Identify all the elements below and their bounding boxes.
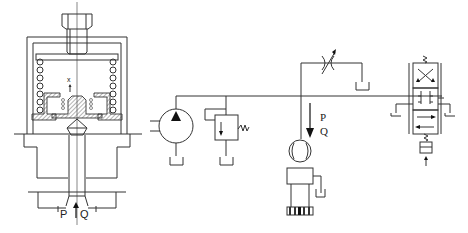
label-p-right: P xyxy=(320,111,326,123)
diagram-canvas: x xyxy=(0,0,468,233)
tank-pump xyxy=(170,157,183,165)
directional-valve xyxy=(391,56,455,166)
label-q-left: Q xyxy=(80,208,89,220)
hydraulic-schematic: P Q xyxy=(150,49,455,215)
valve-body xyxy=(14,134,142,212)
throttle-branch xyxy=(301,49,369,139)
label-p-left: P xyxy=(60,208,67,220)
spring-top-icon xyxy=(423,56,427,63)
pump-symbol xyxy=(150,109,193,165)
tank-dv-left xyxy=(391,113,401,116)
flow-meter xyxy=(289,140,311,162)
relief-valve xyxy=(205,96,249,165)
valve-cross-section: x xyxy=(14,2,142,225)
spring-bottom-icon xyxy=(424,134,428,141)
label-q-right: Q xyxy=(320,125,328,137)
label-x: x xyxy=(67,76,71,83)
spring-right xyxy=(110,59,116,113)
piston xyxy=(32,93,122,120)
tank-relief xyxy=(220,157,233,165)
spring-icon xyxy=(238,125,249,131)
test-valve-body xyxy=(287,168,325,215)
tank-throttle xyxy=(356,82,369,90)
tank-dv-right xyxy=(445,113,455,116)
spring-left xyxy=(37,59,43,113)
